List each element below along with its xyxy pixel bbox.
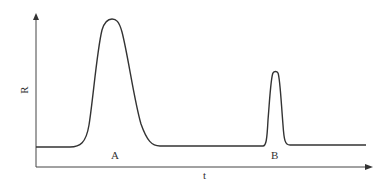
y-axis-label: R — [18, 86, 30, 93]
y-axis-arrow-icon — [33, 13, 39, 20]
y-axis — [33, 13, 39, 167]
peak-label-b: B — [271, 149, 278, 161]
signal-trace — [36, 19, 366, 147]
x-axis-label: t — [203, 169, 206, 181]
chromatogram-diagram — [0, 0, 389, 189]
peak-label-a: A — [111, 149, 119, 161]
x-axis-arrow-icon — [365, 164, 373, 170]
